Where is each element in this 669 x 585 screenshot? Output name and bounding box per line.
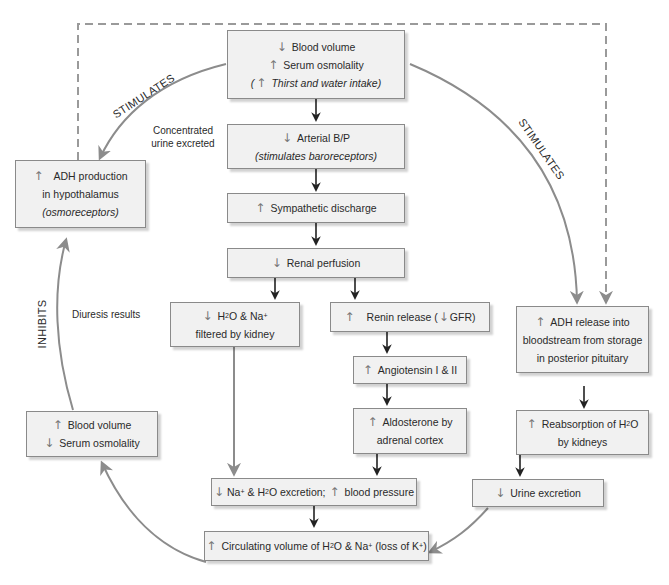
- up-arrow-icon: ↑: [53, 416, 63, 434]
- label-inhibits: INHIBITS: [36, 300, 48, 349]
- node-circulating-volume: ↑Circulating volume of H2O & Na+ (loss o…: [204, 531, 429, 561]
- trigger-line-2: ↑Serum osmolality: [268, 56, 364, 74]
- up-arrow-icon: ↑: [256, 74, 266, 92]
- node-aldosterone: ↑Aldosterone by adrenal cortex: [353, 408, 467, 454]
- up-arrow-icon: ↑: [345, 308, 355, 326]
- node-arterial-bp: ↓Arterial B/P (stimulates baroreceptors): [227, 124, 405, 169]
- down-arrow-icon: ↓: [282, 129, 292, 147]
- node-adh-production: ↑ADH production in hypothalamus (osmorec…: [15, 160, 146, 228]
- down-arrow-icon: ↓: [277, 38, 287, 56]
- up-arrow-icon: ↑: [33, 167, 43, 185]
- up-arrow-icon: ↑: [363, 361, 373, 379]
- up-arrow-icon: ↑: [330, 483, 340, 501]
- node-renal-perfusion: ↓Renal perfusion: [227, 248, 405, 278]
- node-h2o-na-filtered: ↓H2O & Na+ filtered by kidney: [170, 302, 300, 347]
- up-arrow-icon: ↑: [527, 415, 537, 433]
- down-arrow-icon: ↓: [44, 434, 54, 452]
- curve-urine-to-circulating: [430, 508, 488, 552]
- up-arrow-icon: ↑: [535, 313, 545, 331]
- node-urine-excretion: ↓Urine excretion: [472, 479, 604, 507]
- flowchart-canvas: ↓Blood volume ↑Serum osmolality (↑Thirst…: [0, 0, 669, 585]
- curve-feedback: [102, 463, 206, 562]
- down-arrow-icon: ↓: [214, 483, 224, 501]
- down-arrow-icon: ↓: [272, 254, 282, 272]
- trigger-line-1: ↓Blood volume: [277, 38, 356, 56]
- node-trigger-blood-volume: ↓Blood volume ↑Serum osmolality (↑Thirst…: [227, 30, 405, 99]
- node-excretion-blood-pressure: ↓Na+ & H2O excretion;↑blood pressure: [211, 478, 417, 506]
- up-arrow-icon: ↑: [206, 537, 216, 555]
- label-diuresis-results: Diuresis results: [72, 308, 140, 321]
- trigger-line-3: (↑Thirst and water intake): [251, 74, 381, 92]
- down-arrow-icon: ↓: [495, 484, 505, 502]
- node-angiotensin: ↑Angiotensin I & II: [353, 356, 467, 384]
- up-arrow-icon: ↑: [255, 199, 265, 217]
- down-arrow-icon: ↓: [439, 308, 449, 326]
- label-concentrated-urine: Concentrated urine excreted: [138, 124, 228, 150]
- node-adh-release: ↑ADH release into bloodstream from stora…: [516, 306, 649, 373]
- curve-inhibits: [57, 240, 73, 410]
- down-arrow-icon: ↓: [202, 307, 212, 325]
- up-arrow-icon: ↑: [268, 56, 278, 74]
- node-sympathetic-discharge: ↑Sympathetic discharge: [227, 193, 405, 223]
- up-arrow-icon: ↑: [367, 413, 377, 431]
- node-reabsorption: ↑Reabsorption of H2O by kidneys: [516, 410, 649, 455]
- node-renin-release: ↑Renin release (↓GFR): [330, 302, 490, 332]
- curve-stimulates-right: [410, 64, 577, 302]
- node-feedback-blood-volume: ↑Blood volume ↓Serum osmolality: [26, 411, 158, 457]
